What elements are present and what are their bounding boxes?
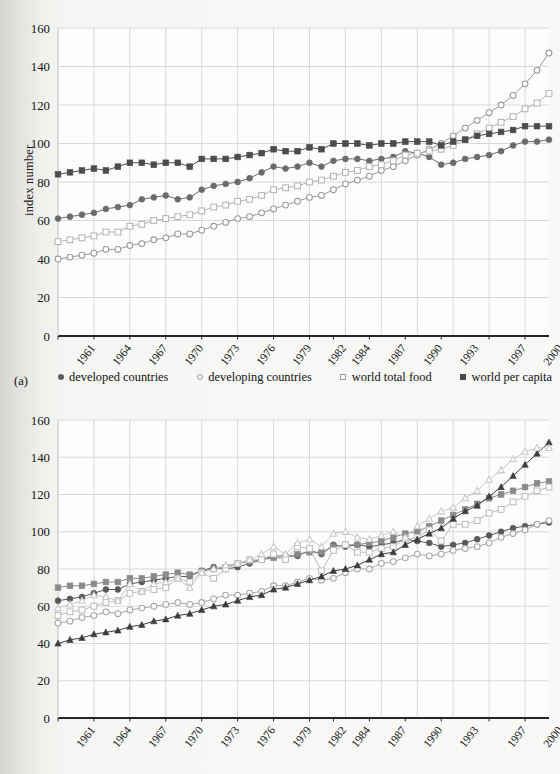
- chart-b-canvas: 020406080100120140160: [0, 392, 560, 774]
- circle-open-marker-icon: [195, 373, 204, 382]
- svg-text:20: 20: [37, 674, 50, 688]
- panel-tag-a: (a): [14, 374, 28, 389]
- svg-text:160: 160: [31, 414, 50, 428]
- svg-text:0: 0: [44, 330, 50, 344]
- svg-text:100: 100: [31, 525, 50, 539]
- legend-item-world-per-capita[interactable]: world per capita: [458, 371, 552, 383]
- svg-text:80: 80: [37, 563, 50, 577]
- figure-page: 020406080100120140160 index number (a) d…: [0, 0, 560, 774]
- svg-text:0: 0: [44, 712, 50, 726]
- square-open-marker-icon: [339, 373, 348, 382]
- chart-a-canvas: 020406080100120140160: [0, 0, 560, 392]
- legend-item-world-total-food[interactable]: world total food: [339, 371, 432, 383]
- legend-a: developed countriesdeveloping countriesw…: [56, 371, 556, 383]
- svg-text:160: 160: [31, 22, 50, 36]
- legend-label: world total food: [352, 371, 432, 383]
- legend-label: developing countries: [208, 371, 312, 383]
- legend-item-developing-countries[interactable]: developing countries: [195, 371, 312, 383]
- square-filled-marker-icon: [458, 373, 467, 382]
- chart-panel-a: 020406080100120140160 index number (a) d…: [0, 0, 560, 392]
- svg-text:40: 40: [37, 637, 50, 651]
- legend-label: world per capita: [471, 371, 552, 383]
- legend-label: developed countries: [69, 371, 168, 383]
- chart-panel-b: 020406080100120140160 index number (b) E…: [0, 392, 560, 774]
- svg-text:140: 140: [31, 60, 50, 74]
- y-axis-label-a: index number: [22, 145, 37, 216]
- svg-text:120: 120: [31, 99, 50, 113]
- svg-text:60: 60: [37, 600, 50, 614]
- svg-text:140: 140: [31, 451, 50, 465]
- svg-text:80: 80: [37, 176, 50, 190]
- svg-text:20: 20: [37, 291, 50, 305]
- svg-text:40: 40: [37, 253, 50, 267]
- circle-filled-marker-icon: [56, 373, 65, 382]
- legend-item-developed-countries[interactable]: developed countries: [56, 371, 168, 383]
- svg-text:120: 120: [31, 488, 50, 502]
- svg-text:60: 60: [37, 214, 50, 228]
